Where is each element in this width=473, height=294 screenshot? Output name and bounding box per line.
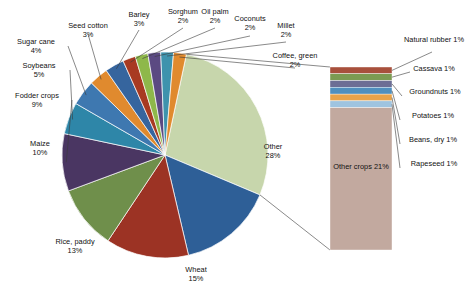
bar-segment[interactable]	[330, 81, 392, 88]
pie-label-seed-cotton: Seed cotton 3%	[55, 22, 121, 39]
bar-label-other-crops: Other crops 21%	[331, 163, 391, 172]
bar-segment[interactable]	[330, 74, 392, 81]
pie-label-rice-paddy: Rice, paddy 13%	[40, 238, 110, 255]
pie-label-soybeans: Soybeans 5%	[8, 62, 70, 79]
pie-label-maize: Maize 10%	[14, 140, 66, 157]
pie-label-coconuts: Coconuts 2%	[226, 15, 274, 32]
bar-label-rapeseed: Rapeseed 1%	[406, 160, 462, 169]
bar-segment[interactable]	[330, 101, 392, 108]
leader-line	[155, 36, 250, 57]
pie-label-wheat: Wheat 15%	[170, 266, 222, 283]
chart-canvas: Sugar cane 4% Seed cotton 3% Soybeans 5%…	[0, 0, 473, 294]
pie-label-fodder-crops: Fodder crops 9%	[2, 92, 72, 109]
bar-label-beans-dry: Beans, dry 1%	[404, 136, 462, 145]
bar-segment[interactable]	[330, 108, 392, 250]
bar-segment[interactable]	[330, 87, 392, 94]
pie-label-barley: Barley 3%	[119, 11, 159, 28]
pie-label-sugar-cane: Sugar cane 4%	[4, 38, 68, 55]
bar-segment[interactable]	[330, 94, 392, 101]
pie-slice-group	[62, 52, 268, 258]
breakout-connector	[260, 195, 330, 250]
bar-label-natural-rubber: Natural rubber 1%	[398, 36, 470, 45]
bar-label-groundnuts: Groundnuts 1%	[404, 88, 466, 97]
pie-label-other: Other 28%	[253, 143, 293, 160]
breakout-stacked-bar	[330, 67, 392, 250]
bar-segment[interactable]	[330, 67, 392, 74]
pie-label-millet: Millet 2%	[268, 22, 304, 39]
leader-line	[88, 34, 101, 79]
breakout-leader-line	[392, 84, 402, 96]
bar-label-potatoes: Potatoes 1%	[406, 112, 460, 121]
pie-label-coffee-green: Coffee, green 2%	[262, 52, 328, 69]
bar-label-cassava: Cassava 1%	[408, 65, 460, 74]
